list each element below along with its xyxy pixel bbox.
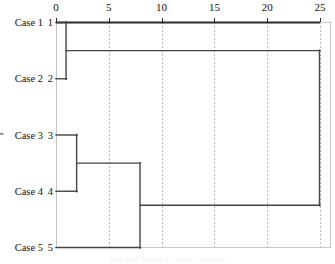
plot-frame [57, 23, 331, 248]
dendrogram-plot [0, 0, 335, 264]
chart-caption: Rescaled Distance Cluster Combine [0, 255, 335, 264]
dendrogram-figure: Y 0510152025 Case 11Case 22Case 33Case 4… [0, 0, 335, 264]
